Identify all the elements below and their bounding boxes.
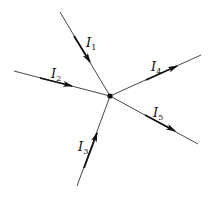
label-i4: I4 [151,60,161,76]
label-i2-sub: 2 [56,74,61,83]
label-i2: I2 [51,67,61,83]
junction-diagram [0,0,211,198]
label-i3-sub: 3 [83,147,88,156]
label-i5: I5 [153,106,163,122]
label-i5-sub: 5 [158,113,163,122]
label-i1: I1 [86,36,96,52]
label-i4-sub: 4 [156,67,161,76]
label-i3: I3 [78,140,88,156]
label-i1-sub: 1 [91,43,96,52]
junction-node [107,93,112,98]
